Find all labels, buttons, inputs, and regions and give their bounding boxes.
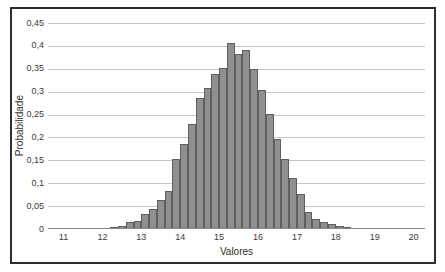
y-tick-label: 0,1 <box>12 178 44 189</box>
x-tick-label: 14 <box>168 232 192 243</box>
x-axis-line <box>48 228 425 229</box>
histogram-bar <box>312 219 320 228</box>
gridline <box>48 23 425 24</box>
histogram-bar <box>219 68 227 228</box>
y-tick-label: 0,05 <box>12 201 44 212</box>
gridline <box>48 46 425 47</box>
histogram-bar <box>211 74 219 228</box>
histogram-bar <box>180 144 188 228</box>
histogram-bar <box>242 50 250 228</box>
histogram-bar <box>281 159 289 228</box>
y-tick-label: 0,4 <box>12 40 44 51</box>
histogram-bar <box>165 191 173 228</box>
x-axis-title: Valores <box>48 246 425 257</box>
histogram-bar <box>266 114 274 228</box>
y-tick-label: 0,45 <box>12 18 44 29</box>
x-tick-label: 16 <box>246 232 270 243</box>
x-tick-label: 17 <box>285 232 309 243</box>
y-axis-title-text: Probabilidade <box>14 95 25 156</box>
histogram-bar <box>196 98 204 228</box>
y-tick-label: 0,35 <box>12 63 44 74</box>
histogram-bar <box>297 194 305 228</box>
plot-area <box>48 23 425 229</box>
histogram-bar <box>188 124 196 228</box>
y-tick-label: 0 <box>12 224 44 235</box>
histogram-bar <box>204 88 212 228</box>
chart-frame: Probabilidade Valores 00,050,10,150,20,2… <box>10 7 436 264</box>
histogram-bar <box>172 159 180 228</box>
histogram-bar <box>274 139 282 228</box>
x-tick-label: 19 <box>363 232 387 243</box>
x-tick-label: 15 <box>207 232 231 243</box>
x-tick-label: 18 <box>324 232 348 243</box>
x-tick-label: 20 <box>402 232 426 243</box>
histogram-bar <box>250 69 258 228</box>
y-tick-label: 0,2 <box>12 132 44 143</box>
histogram-bar <box>141 214 149 228</box>
chart-inner: Probabilidade Valores 00,050,10,150,20,2… <box>12 9 434 262</box>
x-tick-label: 13 <box>129 232 153 243</box>
y-tick-label: 0,15 <box>12 155 44 166</box>
histogram-bar <box>157 200 165 228</box>
histogram-bar <box>289 178 297 228</box>
y-tick-label: 0,25 <box>12 109 44 120</box>
x-tick-label: 11 <box>52 232 76 243</box>
histogram-bar <box>305 212 313 228</box>
histogram-bar <box>149 209 157 228</box>
histogram-bar <box>227 43 235 228</box>
histogram-bar <box>134 221 142 228</box>
histogram-bar <box>235 54 243 228</box>
y-tick-label: 0,3 <box>12 86 44 97</box>
x-tick-label: 12 <box>90 232 114 243</box>
histogram-bar <box>258 90 266 228</box>
